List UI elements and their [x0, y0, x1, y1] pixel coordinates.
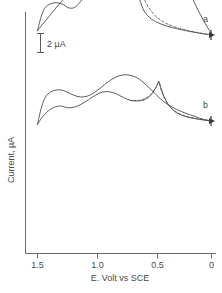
cyclic-voltammogram-figure: 1.5 1.0 0.5 0 E. Volt vs SCE Current, µA… — [0, 0, 222, 293]
series-b-voltammogram — [38, 75, 212, 125]
scale-bar-label: 2 µA — [47, 39, 66, 49]
x-tick-label-2: 0.5 — [151, 260, 164, 270]
chart-canvas: 1.5 1.0 0.5 0 E. Volt vs SCE Current, µA… — [0, 0, 222, 293]
y-axis-title: Current, µA — [6, 137, 16, 183]
x-axis-title: E. Volt vs SCE — [91, 273, 150, 283]
x-tick-label-3: 0 — [209, 260, 214, 270]
scale-bar — [37, 33, 44, 53]
curve-label-b: b — [203, 100, 208, 110]
x-tick-label-1: 1.0 — [91, 260, 104, 270]
x-tick-label-0: 1.5 — [31, 260, 44, 270]
curve-label-a: a — [203, 14, 208, 24]
series-b-baseline — [130, 82, 211, 120]
series-a-voltammogram — [38, 0, 212, 35]
endpoint-marker-b — [209, 116, 215, 126]
